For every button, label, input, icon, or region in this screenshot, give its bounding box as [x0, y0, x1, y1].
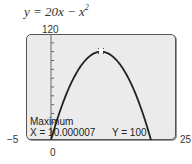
x-readout: X = 10.000007: [30, 127, 95, 138]
coordinate-readout: X = 10.000007 Y = 100: [30, 127, 161, 138]
x-min-label: −5: [7, 134, 18, 145]
x-zero-label: 0: [50, 147, 56, 158]
maximum-label: Maximum: [30, 116, 73, 127]
y-readout: Y = 100: [112, 127, 147, 138]
x-max-label: 25: [180, 134, 191, 145]
equation-label: y = 20x − x2: [24, 3, 89, 20]
